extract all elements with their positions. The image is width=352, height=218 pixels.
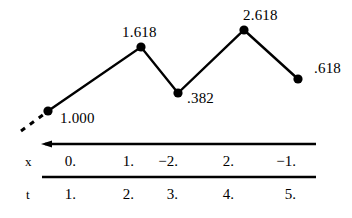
x-cell-3: −2. xyxy=(133,153,178,169)
dashed-continuation-segment xyxy=(21,112,47,131)
x-cell-2: 1. xyxy=(94,153,134,169)
t-cell-5: 5. xyxy=(256,186,296,202)
x-cell-5: −1. xyxy=(251,153,296,169)
t-cell-3: 3. xyxy=(138,186,178,202)
x-cell-1: 0. xyxy=(36,153,76,169)
mathematical-figure: 1.000 1.618 .382 2.618 .618 x 0. 1. −2. … xyxy=(0,0,352,218)
data-point-marker xyxy=(136,42,145,51)
zigzag-polyline xyxy=(48,30,298,111)
x-cell-4: 2. xyxy=(194,153,234,169)
t-cell-2: 2. xyxy=(94,186,134,202)
point-label-4: 2.618 xyxy=(243,7,278,23)
data-point-marker xyxy=(239,25,248,34)
t-cell-1: 1. xyxy=(36,186,76,202)
row-label-x: x xyxy=(25,154,32,169)
t-cell-4: 4. xyxy=(194,186,234,202)
row-label-t: t xyxy=(26,187,30,202)
left-arrowhead-icon xyxy=(41,141,52,148)
point-label-3: .382 xyxy=(187,90,214,106)
point-label-2: 1.618 xyxy=(122,24,157,40)
point-label-5: .618 xyxy=(314,60,341,76)
data-point-marker xyxy=(43,106,52,115)
point-label-1: 1.000 xyxy=(60,110,95,126)
data-point-marker xyxy=(173,88,182,97)
data-point-marker xyxy=(293,74,302,83)
